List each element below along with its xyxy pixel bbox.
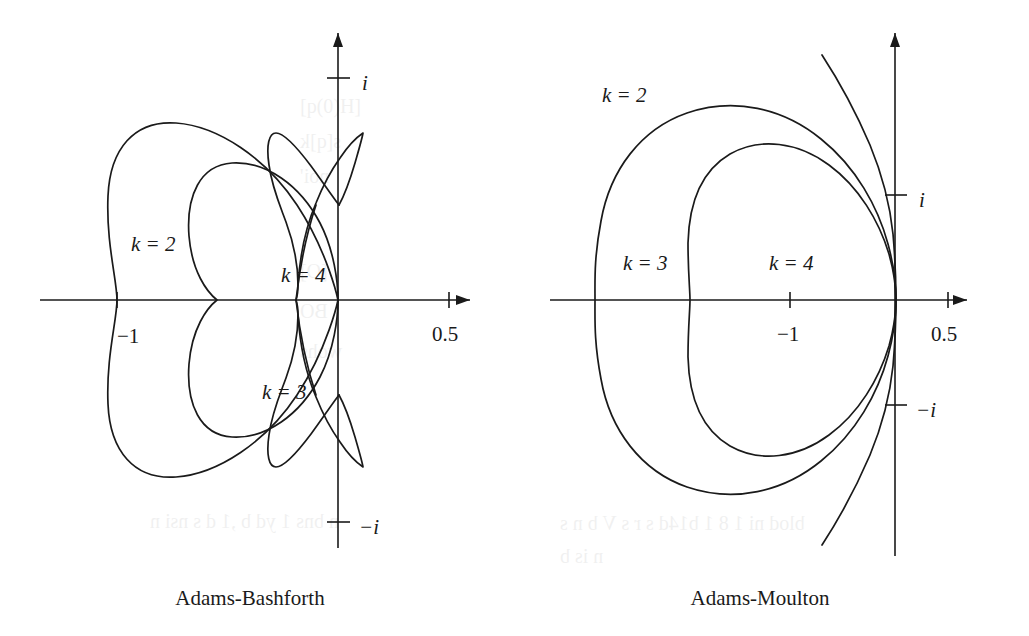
label-ab-k4: k = 4 xyxy=(281,265,326,286)
label-am-k3: k = 3 xyxy=(623,253,668,274)
label-am-axis-minus-i: −i xyxy=(916,400,936,421)
real-axis xyxy=(40,295,470,305)
panel-adams-bashforth: k = 2 k = 4 k = 3 i −i −1 0.5 Adams-Bash… xyxy=(0,0,514,636)
stability-region-figure: [H(0)q] s[q]k noi' [O] BO wohs n bns 1 y… xyxy=(0,0,1029,636)
real-axis xyxy=(550,295,967,305)
label-am-k4: k = 4 xyxy=(769,253,814,274)
label-am-k2: k = 2 xyxy=(602,85,647,106)
caption-adams-bashforth: Adams-Bashforth xyxy=(175,586,324,611)
label-am-axis-minus-1: −1 xyxy=(777,324,799,345)
curve-ab-k4-horn-lower xyxy=(298,315,363,467)
label-ab-k3: k = 3 xyxy=(262,382,307,403)
imaginary-axis xyxy=(890,33,900,556)
label-am-axis-0point5: 0.5 xyxy=(931,324,957,345)
label-ab-axis-0point5: 0.5 xyxy=(432,324,458,345)
label-ab-axis-i: i xyxy=(362,73,368,94)
caption-adams-moulton: Adams-Moulton xyxy=(691,586,830,611)
adams-moulton-plot xyxy=(515,0,1029,636)
panel-adams-moulton: k = 2 k = 3 k = 4 i −i −1 0.5 Adams-Moul… xyxy=(515,0,1029,636)
label-ab-axis-minus-i: −i xyxy=(359,517,379,538)
label-am-axis-i: i xyxy=(919,190,925,211)
adams-bashforth-plot xyxy=(0,0,514,636)
label-ab-axis-minus-1: −1 xyxy=(117,326,139,347)
label-ab-k2: k = 2 xyxy=(131,234,176,255)
